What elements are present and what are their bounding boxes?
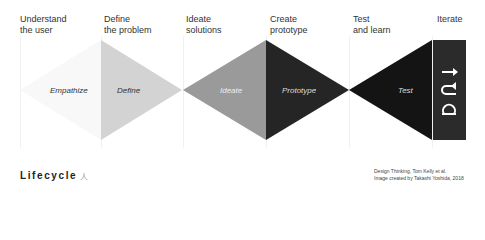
lifecycle-title: Lifecycle (20, 170, 77, 181)
arrow-right-icon (442, 68, 458, 76)
label-ideate: Ideate (220, 86, 242, 95)
loop-icon (442, 105, 456, 114)
label-test: Test (398, 86, 413, 95)
return-loop-icon (442, 82, 456, 94)
define-shape (101, 40, 182, 140)
credit-line: Image created by Takashi Yoshida, 2018 (374, 175, 464, 182)
label-empathize: Empathize (50, 86, 88, 95)
label-define: Define (117, 86, 140, 95)
credit-line: Design Thinking, Tom Kelly et al. (374, 168, 464, 175)
iterate-icons (432, 40, 466, 140)
person-icon: 人 (80, 171, 88, 182)
test-shape (349, 40, 432, 140)
credit-text: Design Thinking, Tom Kelly et al. Image … (374, 168, 464, 182)
label-prototype: Prototype (282, 86, 316, 95)
